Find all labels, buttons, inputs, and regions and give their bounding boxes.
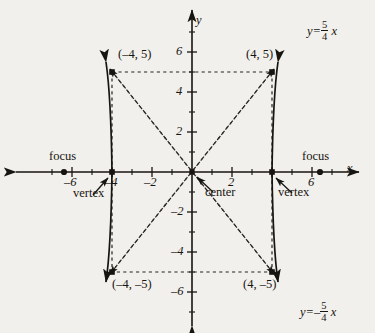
point-label-bottom-left: (–4, –5)	[112, 278, 152, 291]
point-corner-top-right	[269, 69, 275, 75]
asymptote-negative-fraction: 54	[320, 300, 327, 323]
point-corner-bottom-right	[269, 269, 275, 275]
y-tick-label--4: –4	[171, 245, 184, 258]
x-axis-name: x	[347, 162, 353, 175]
point-focus-right	[317, 169, 323, 175]
asymptote-negative-variable: x	[331, 305, 337, 319]
asymptote-positive-fraction: 54	[321, 19, 328, 42]
point-corner-top-left	[109, 69, 115, 75]
x-tick-label--2: –2	[144, 176, 157, 189]
asymptote-negative-numerator: 5	[320, 300, 327, 311]
y-tick-label--6: –6	[171, 285, 184, 298]
point-corner-bottom-left	[109, 269, 115, 275]
label-focus-right: focus	[302, 150, 329, 163]
y-tick-label-2: 2	[176, 125, 182, 138]
x-tick-label--4: –4	[105, 176, 118, 189]
y-tick-label--2: –2	[171, 205, 184, 218]
point-vertex-right	[269, 169, 275, 175]
point-label-bottom-right: (4, –5)	[243, 278, 276, 291]
label-focus-left: focus	[49, 150, 76, 163]
asymptote-positive-numerator: 5	[321, 19, 328, 30]
asymptote-label-negative: y=–54 x	[300, 300, 336, 323]
asymptote-positive-equals: =	[313, 24, 321, 38]
point-label-top-right: (4, 5)	[246, 48, 273, 61]
label-center: center	[205, 186, 236, 199]
y-axis-name: y	[196, 14, 202, 27]
label-vertex-right: vertex	[278, 186, 309, 199]
y-tick-label-4: 4	[176, 85, 182, 98]
label-vertex-left: vertex	[73, 187, 104, 200]
y-tick-label-6: 6	[176, 45, 182, 58]
point-label-top-left: (–4, 5)	[118, 48, 151, 61]
asymptote-negative-denominator: 4	[320, 311, 327, 323]
asymptote-label-positive: y=54 x	[307, 19, 337, 42]
point-vertex-left	[109, 169, 115, 175]
graph-canvas	[0, 0, 375, 333]
asymptote-positive-variable: x	[331, 24, 337, 38]
asymptote-positive-denominator: 4	[321, 30, 328, 42]
hyperbola-graph: –6 –4 –2 2 6 6 4 2 –2 –4 –6 y x (–4, 5) …	[0, 0, 375, 333]
point-center	[189, 169, 194, 174]
asymptote-negative-equals: =	[306, 305, 314, 319]
